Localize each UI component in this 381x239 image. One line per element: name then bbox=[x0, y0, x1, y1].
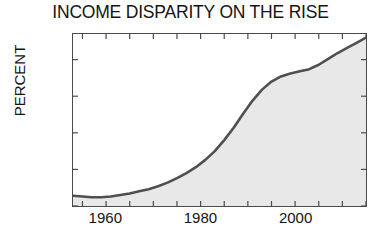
x-tick-label: 1960 bbox=[89, 209, 122, 226]
y-axis-title: PERCENT bbox=[11, 31, 28, 131]
plot-area bbox=[72, 33, 367, 207]
chart-title: INCOME DISPARITY ON THE RISE bbox=[0, 2, 381, 23]
chart-plot-svg bbox=[73, 34, 366, 206]
chart-container: INCOME DISPARITY ON THE RISE PERCENT 110… bbox=[0, 0, 381, 239]
x-tick-label: 1980 bbox=[184, 209, 217, 226]
x-tick-label: 2000 bbox=[279, 209, 312, 226]
